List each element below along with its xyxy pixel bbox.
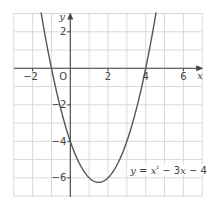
x-axis-label: x: [197, 70, 203, 81]
y-tick-label: −2: [52, 99, 67, 110]
x-tick-label: 4: [143, 71, 149, 82]
equation-label: y = x² − 3x − 4: [129, 165, 207, 176]
origin-label: O: [59, 71, 67, 82]
y-tick-label: −4: [52, 136, 67, 147]
equation-equals: =: [136, 165, 151, 176]
equation-term-b: − 3: [159, 165, 180, 176]
x-tick-label: 2: [105, 71, 111, 82]
parabola-curve: [38, 0, 159, 182]
y-axis-label: y: [58, 11, 65, 22]
y-tick-label: −6: [52, 172, 67, 183]
parabola-chart: −22462−2−4−6 x y O y = x² − 3x − 4: [0, 0, 213, 204]
equation-term-c: − 4: [186, 165, 207, 176]
x-tick-label: 6: [180, 71, 186, 82]
x-tick-label: −2: [23, 71, 38, 82]
y-tick-label: 2: [60, 26, 66, 37]
